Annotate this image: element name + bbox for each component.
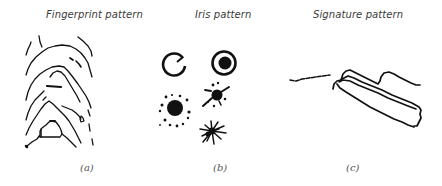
- caption-b: (b): [213, 162, 227, 173]
- signature-image: [290, 70, 421, 127]
- caption-a: (a): [80, 162, 94, 173]
- figure-artwork: [0, 0, 442, 186]
- caption-c: (c): [346, 162, 359, 173]
- iris-image: [159, 52, 236, 145]
- figure: Fingerprint pattern Iris pattern Signatu…: [0, 0, 442, 186]
- fingerprint-image: [26, 36, 93, 147]
